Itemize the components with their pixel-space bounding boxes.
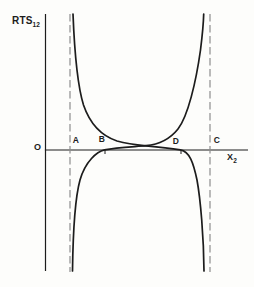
y-axis-title: RTS12: [12, 16, 40, 26]
point-label-c: C: [214, 136, 220, 145]
origin-label: O: [34, 143, 41, 152]
y-axis-title-text: RTS: [12, 15, 33, 26]
rts-diagram: RTS12 O X2 A B D C: [0, 0, 254, 287]
point-label-a: A: [73, 136, 79, 145]
ascending-curve: [73, 14, 204, 271]
point-label-d: D: [173, 137, 179, 146]
x-axis-title-subscript: 2: [233, 157, 237, 164]
descending-curve: [73, 14, 204, 271]
point-label-b: B: [99, 135, 105, 144]
y-axis-title-subscript: 12: [33, 21, 40, 28]
x-axis-title: X2: [227, 153, 237, 162]
